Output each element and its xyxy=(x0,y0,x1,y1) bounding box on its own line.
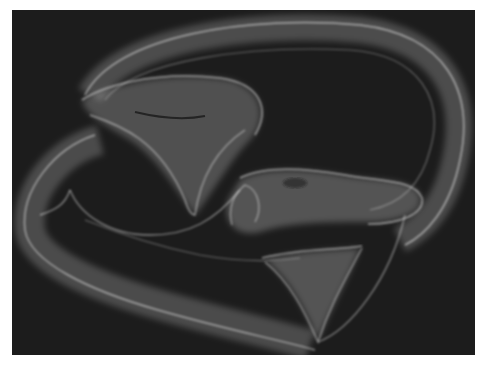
twisted-tube-surface xyxy=(12,10,475,355)
render-canvas xyxy=(12,10,475,355)
right-tube xyxy=(227,169,423,233)
